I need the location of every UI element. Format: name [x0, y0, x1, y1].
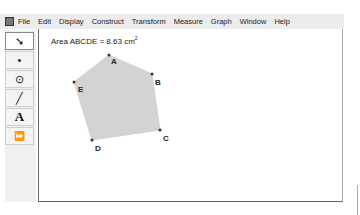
menu-file[interactable]: File: [18, 17, 30, 26]
menu-help[interactable]: Help: [274, 17, 289, 26]
point-icon: •: [18, 54, 22, 66]
label-d[interactable]: D: [95, 144, 101, 153]
menu-graph[interactable]: Graph: [211, 17, 232, 26]
menu-edit[interactable]: Edit: [38, 17, 51, 26]
selection-arrow-tool[interactable]: ➘: [5, 32, 34, 50]
menu-bar: File Edit Display Construct Transform Me…: [0, 14, 344, 29]
window-edge: [357, 185, 358, 215]
menu-construct[interactable]: Construct: [92, 17, 124, 26]
polygon-svg: [39, 29, 344, 202]
compass-tool[interactable]: ⊙: [5, 70, 34, 88]
menu-transform[interactable]: Transform: [132, 17, 166, 26]
label-a[interactable]: A: [111, 57, 117, 66]
text-tool[interactable]: A: [5, 108, 34, 126]
menu-display[interactable]: Display: [59, 17, 84, 26]
menu-measure[interactable]: Measure: [174, 17, 203, 26]
menu-window[interactable]: Window: [240, 17, 267, 26]
text-icon: A: [15, 109, 24, 125]
point-tool[interactable]: •: [5, 51, 34, 69]
toolbox: ➘ • ⊙ ╱ A ⏩: [5, 30, 36, 202]
custom-tool[interactable]: ⏩: [5, 127, 34, 145]
line-icon: ╱: [16, 92, 23, 105]
label-c[interactable]: C: [163, 134, 169, 143]
point-d[interactable]: [91, 139, 94, 142]
straightedge-tool[interactable]: ╱: [5, 89, 34, 107]
point-c[interactable]: [159, 129, 162, 132]
compass-icon: ⊙: [15, 73, 24, 86]
fast-forward-icon: ⏩: [14, 131, 25, 141]
point-b[interactable]: [151, 73, 154, 76]
point-e[interactable]: [73, 81, 76, 84]
sketch-canvas[interactable]: Area ABCDE = 8.63 cm2 A B C D E: [38, 29, 343, 202]
label-b[interactable]: B: [155, 78, 161, 87]
pentagon-interior[interactable]: [74, 55, 160, 140]
app-icon[interactable]: [5, 17, 14, 26]
label-e[interactable]: E: [78, 85, 83, 94]
arrow-icon: ➘: [15, 35, 24, 48]
